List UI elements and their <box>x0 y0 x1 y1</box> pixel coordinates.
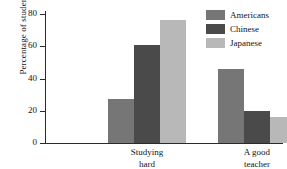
group-label-1: A good teacher <box>207 147 287 169</box>
y-tick-label-40: 40 <box>28 73 37 84</box>
y-tick-label-60: 60 <box>28 40 37 51</box>
legend-label-japanese: Japanese <box>230 38 262 48</box>
group-label-0: Studying hard <box>97 147 197 169</box>
legend-swatch-chinese <box>206 24 225 34</box>
legend-item-japanese: Japanese <box>206 37 269 48</box>
legend-item-chinese: Chinese <box>206 23 269 34</box>
legend-label-chinese: Chinese <box>230 24 259 34</box>
y-axis-title: Percentage of students <box>18 0 28 98</box>
bar-chinese-group-1 <box>244 111 270 143</box>
y-tick-40: 40 <box>40 79 45 80</box>
legend-swatch-japanese <box>206 38 225 48</box>
y-tick-label-80: 80 <box>28 8 37 19</box>
bar-chinese-group-0 <box>134 45 160 143</box>
bar-chart: Percentage of students 020406080 Studyin… <box>0 0 287 169</box>
y-tick-60: 60 <box>40 46 45 47</box>
y-tick-80: 80 <box>40 14 45 15</box>
y-tick-label-20: 20 <box>28 105 37 116</box>
bar-japanese-group-1 <box>270 117 287 143</box>
y-tick-label-0: 0 <box>33 137 38 148</box>
legend-label-americans: Americans <box>230 10 269 20</box>
legend: AmericansChineseJapanese <box>206 9 269 48</box>
bar-americans-group-0 <box>108 99 134 143</box>
bar-japanese-group-0 <box>160 20 186 143</box>
y-tick-0: 0 <box>40 143 45 144</box>
y-tick-20: 20 <box>40 111 45 112</box>
legend-swatch-americans <box>206 10 225 20</box>
legend-item-americans: Americans <box>206 9 269 20</box>
bar-americans-group-1 <box>218 69 244 143</box>
y-axis-line <box>45 11 46 143</box>
x-axis-line <box>45 143 283 144</box>
